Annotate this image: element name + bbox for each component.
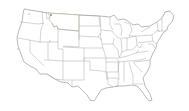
city-dot xyxy=(49,40,50,41)
city-dot xyxy=(28,13,29,14)
city-dot xyxy=(50,14,52,16)
us-outline xyxy=(17,9,174,101)
city-dot xyxy=(17,48,18,49)
city-dot xyxy=(116,85,117,86)
us-map xyxy=(0,0,189,111)
us-map-svg xyxy=(0,0,189,111)
